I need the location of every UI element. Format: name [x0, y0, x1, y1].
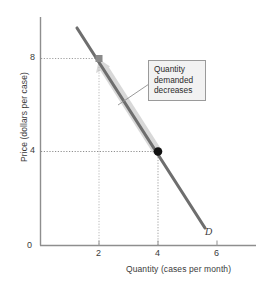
annotation-line-1: Quantity: [154, 64, 201, 75]
plot-canvas: [0, 0, 275, 283]
demand-curve-label: D: [205, 226, 212, 237]
demand-curve-figure: Price (dollars per case) Quantity (cases…: [0, 0, 275, 283]
x-axis-title: Quantity (cases per month): [126, 264, 231, 274]
annotation-line-2: demanded: [154, 75, 201, 86]
x-tick-label-2: 2: [96, 248, 101, 258]
data-point-marker-4-4: [154, 147, 163, 156]
data-point-marker-2-8: [96, 55, 103, 62]
guide-lines: [41, 59, 158, 246]
annotation-callout: Quantity demanded decreases: [148, 60, 206, 101]
x-tick-label-6: 6: [214, 248, 219, 258]
y-tick-label-8: 8: [30, 52, 35, 62]
origin-label: 0: [27, 240, 32, 250]
annotation-line-3: decreases: [154, 85, 201, 96]
x-tick-label-4: 4: [155, 248, 160, 258]
y-tick-label-4: 4: [30, 145, 35, 155]
y-axis-title: Price (dollars per case): [19, 52, 29, 182]
